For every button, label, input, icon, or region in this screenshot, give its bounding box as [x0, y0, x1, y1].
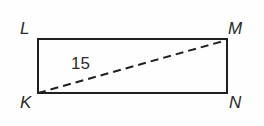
- vertex-label-N: N: [229, 94, 241, 111]
- vertex-label-K: K: [20, 94, 31, 111]
- vertex-label-L: L: [20, 20, 29, 37]
- geometry-figure: L M K N 15: [0, 0, 264, 126]
- figure-canvas: [0, 0, 264, 126]
- vertex-label-M: M: [228, 20, 242, 37]
- diagonal-KM: [38, 40, 227, 93]
- diagonal-length-label: 15: [70, 55, 91, 72]
